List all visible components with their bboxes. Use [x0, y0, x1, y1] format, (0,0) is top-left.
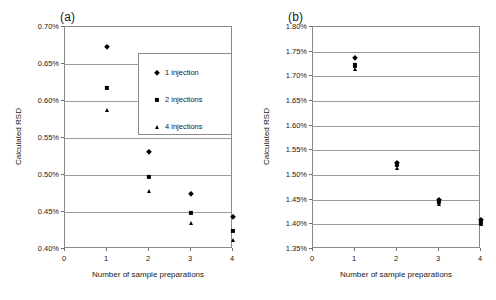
x-tick-label: 1 — [344, 254, 364, 263]
data-point — [146, 149, 152, 155]
triangle-marker-icon — [155, 125, 159, 129]
y-tick-label: 0.60% — [1, 96, 59, 105]
y-tick-mark — [309, 100, 312, 101]
data-point — [105, 86, 109, 90]
y-tick-label: 1.70% — [249, 71, 307, 80]
x-tick-label: 2 — [386, 254, 406, 263]
x-tick-label: 0 — [54, 254, 74, 263]
x-tick-mark — [148, 248, 149, 251]
y-tick-mark — [309, 199, 312, 200]
x-axis-label: Number of sample preparations — [64, 270, 232, 279]
chart-panel-b: (b)1.35%1.40%1.45%1.50%1.55%1.60%1.65%1.… — [248, 0, 496, 300]
y-tick-mark — [61, 63, 64, 64]
x-tick-label: 0 — [302, 254, 322, 263]
data-point — [395, 166, 399, 170]
data-point — [189, 211, 193, 215]
x-tick-label: 4 — [470, 254, 490, 263]
y-tick-label: 1.40% — [249, 219, 307, 228]
data-point — [147, 189, 151, 193]
x-tick-label: 3 — [180, 254, 200, 263]
chart-panel-a: (a)0.40%0.45%0.50%0.55%0.60%0.65%0.70%01… — [0, 0, 248, 300]
y-tick-mark — [309, 26, 312, 27]
x-tick-label: 4 — [222, 254, 242, 263]
y-axis-label: Calculated RSD — [262, 108, 271, 165]
legend-label: 1 injection — [165, 68, 199, 77]
legend-label: 2 injections — [165, 95, 203, 104]
legend-marker-triangle-icon — [153, 123, 160, 130]
legend-item-square[interactable]: 2 injections — [153, 95, 203, 104]
y-tick-label: 0.70% — [1, 22, 59, 31]
plot-area — [312, 26, 480, 248]
y-tick-label: 1.80% — [249, 22, 307, 31]
x-axis-label: Number of sample preparations — [312, 270, 480, 279]
data-point — [104, 44, 110, 50]
y-tick-mark — [61, 211, 64, 212]
y-tick-label: 1.35% — [249, 244, 307, 253]
legend-marker-square-icon — [153, 96, 160, 103]
legend-marker-diamond-icon — [153, 69, 160, 76]
y-tick-mark — [309, 223, 312, 224]
square-marker-icon — [154, 97, 158, 101]
y-tick-mark — [309, 149, 312, 150]
y-tick-mark — [309, 174, 312, 175]
y-tick-label: 1.45% — [249, 194, 307, 203]
x-tick-mark — [232, 248, 233, 251]
x-tick-mark — [438, 248, 439, 251]
x-tick-mark — [312, 248, 313, 251]
x-tick-mark — [396, 248, 397, 251]
legend-item-triangle[interactable]: 4 injections — [153, 122, 203, 131]
x-tick-label: 2 — [138, 254, 158, 263]
data-point — [188, 191, 194, 197]
y-tick-mark — [309, 51, 312, 52]
y-tick-mark — [309, 125, 312, 126]
diamond-marker-icon — [154, 70, 160, 76]
legend-label: 4 injections — [165, 122, 203, 131]
x-tick-label: 3 — [428, 254, 448, 263]
y-tick-label: 0.50% — [1, 170, 59, 179]
x-tick-mark — [190, 248, 191, 251]
y-tick-label: 0.40% — [1, 244, 59, 253]
data-point — [353, 67, 357, 71]
x-tick-mark — [354, 248, 355, 251]
y-tick-label: 1.55% — [249, 145, 307, 154]
y-tick-label: 0.65% — [1, 59, 59, 68]
gridline-horizontal — [313, 126, 479, 127]
gridline-horizontal — [313, 150, 479, 151]
y-tick-label: 1.65% — [249, 96, 307, 105]
legend-item-diamond[interactable]: 1 injection — [153, 68, 199, 77]
gridline-horizontal — [65, 138, 231, 139]
gridline-horizontal — [313, 224, 479, 225]
y-tick-label: 0.55% — [1, 133, 59, 142]
data-point — [231, 238, 235, 242]
figure-root: (a)0.40%0.45%0.50%0.55%0.60%0.65%0.70%01… — [0, 0, 496, 300]
data-point — [147, 175, 151, 179]
y-axis-label: Calculated RSD — [14, 108, 23, 165]
x-tick-mark — [480, 248, 481, 251]
x-tick-mark — [106, 248, 107, 251]
x-tick-label: 1 — [96, 254, 116, 263]
data-point — [352, 55, 358, 61]
data-point — [231, 229, 235, 233]
data-point — [189, 221, 193, 225]
x-tick-mark — [64, 248, 65, 251]
chart-legend: 1 injection2 injections4 injections — [138, 53, 232, 135]
gridline-horizontal — [313, 52, 479, 53]
gridline-horizontal — [313, 175, 479, 176]
gridline-horizontal — [313, 101, 479, 102]
y-tick-label: 0.45% — [1, 207, 59, 216]
y-tick-label: 1.75% — [249, 46, 307, 55]
y-tick-mark — [61, 100, 64, 101]
gridline-horizontal — [65, 212, 231, 213]
y-tick-mark — [61, 26, 64, 27]
y-tick-mark — [61, 174, 64, 175]
data-point — [230, 214, 236, 220]
y-tick-mark — [309, 75, 312, 76]
y-tick-label: 1.60% — [249, 120, 307, 129]
data-point — [105, 108, 109, 112]
gridline-horizontal — [313, 76, 479, 77]
y-tick-mark — [61, 137, 64, 138]
data-point — [437, 202, 441, 206]
y-tick-label: 1.50% — [249, 170, 307, 179]
data-point — [479, 222, 483, 226]
panel-tag-a: (a) — [60, 10, 75, 24]
